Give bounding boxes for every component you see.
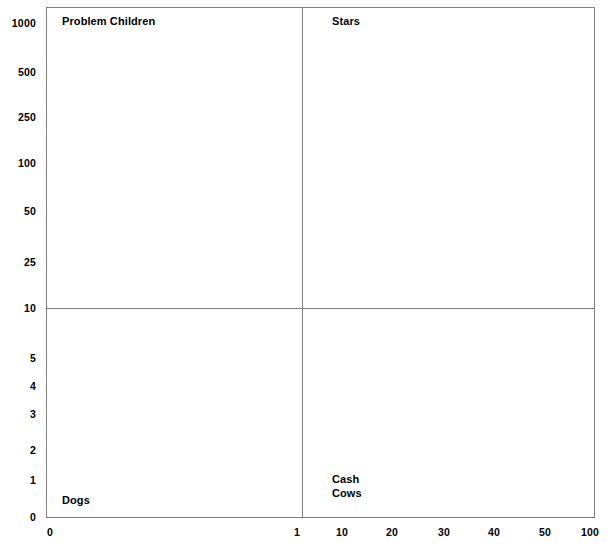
quadrant-divider-horizontal [46,308,595,309]
x-axis-tick-label: 40 [488,526,500,538]
y-axis-tick-label: 100 [0,157,36,169]
x-axis-tick-label: 1 [294,526,300,538]
x-axis-tick-label: 0 [47,526,53,538]
quadrant-divider-vertical [302,7,303,518]
quadrant-label-stars: Stars [332,14,360,28]
y-axis-tick-label: 0 [0,511,36,523]
quadrant-label-dogs: Dogs [62,493,90,507]
x-axis-tick-label: 30 [438,526,450,538]
x-axis-tick-label: 50 [539,526,551,538]
x-axis-tick-label: 20 [386,526,398,538]
quadrant-label-cash-cows: Cash Cows [332,472,362,500]
y-axis-tick-label: 3 [0,408,36,420]
quadrant-label-problem-children: Problem Children [62,14,155,28]
y-axis-tick-label: 50 [0,205,36,217]
y-axis-tick-label: 1 [0,474,36,486]
y-axis-tick-label: 4 [0,380,36,392]
growth-share-matrix-chart: Problem Children Stars Dogs Cash Cows 10… [0,0,612,556]
y-axis-tick-label: 25 [0,256,36,268]
x-axis-tick-label: 10 [336,526,348,538]
y-axis-tick-label: 1000 [0,17,36,29]
plot-area-frame [46,7,595,518]
y-axis-tick-label: 500 [0,66,36,78]
y-axis-tick-label: 5 [0,352,36,364]
x-axis-tick-label: 100 [581,526,599,538]
y-axis-tick-label: 10 [0,302,36,314]
y-axis-tick-label: 250 [0,111,36,123]
y-axis-tick-label: 2 [0,444,36,456]
